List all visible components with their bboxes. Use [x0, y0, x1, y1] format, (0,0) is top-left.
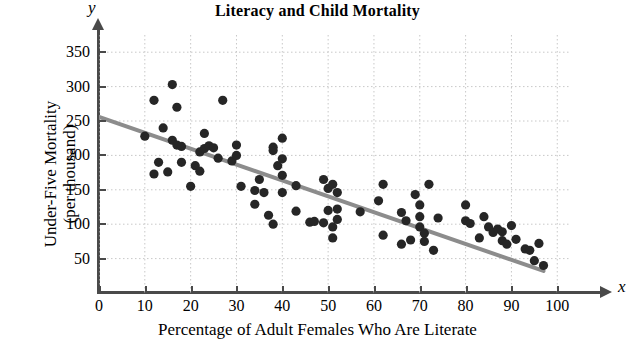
scatter-point: [479, 212, 488, 221]
scatter-point: [379, 231, 388, 240]
scatter-point: [291, 207, 300, 216]
scatter-point: [411, 190, 420, 199]
scatter-point: [177, 158, 186, 167]
scatter-point: [466, 219, 475, 228]
y-tick-mark: [97, 154, 106, 156]
scatter-point: [278, 154, 287, 163]
scatter-point: [530, 256, 539, 265]
scatter-point: [511, 235, 520, 244]
y-tick-mark: [97, 223, 106, 225]
scatter-point: [461, 200, 470, 209]
scatter-point: [232, 140, 241, 149]
scatter-point: [502, 240, 511, 249]
scatter-point: [507, 221, 516, 230]
y-tick-mark: [97, 86, 106, 88]
x-tick-mark: [282, 286, 284, 294]
x-tick-label: 30: [211, 297, 261, 315]
x-tick-label: 90: [486, 297, 536, 315]
x-tick-label: 10: [120, 297, 170, 315]
scatter-point: [278, 134, 287, 143]
scatter-point: [200, 129, 209, 138]
scatter-point: [291, 181, 300, 190]
scatter-point: [236, 182, 245, 191]
scatter-point: [149, 169, 158, 178]
scatter-point: [172, 103, 181, 112]
scatter-point: [434, 213, 443, 222]
x-tick-mark: [557, 286, 559, 294]
scatter-point: [328, 180, 337, 189]
x-tick-mark: [328, 286, 330, 294]
scatter-point: [539, 261, 548, 270]
scatter-point: [168, 80, 177, 89]
scatter-point: [406, 235, 415, 244]
x-tick-mark: [191, 286, 193, 294]
regression-line-segment: [99, 117, 544, 271]
scatter-point: [232, 151, 241, 160]
x-tick-label: 70: [395, 297, 445, 315]
x-tick-mark: [99, 286, 101, 294]
x-tick-mark: [374, 286, 376, 294]
scatter-point: [250, 200, 259, 209]
scatter-point: [278, 171, 287, 180]
scatter-point: [154, 158, 163, 167]
x-tick-mark: [420, 286, 422, 294]
scatter-point: [214, 154, 223, 163]
x-tick-mark: [466, 286, 468, 294]
x-axis-letter: x: [618, 277, 626, 297]
scatter-point: [324, 206, 333, 215]
y-tick-mark: [97, 120, 106, 122]
scatter-point: [319, 218, 328, 227]
scatter-point: [264, 211, 273, 220]
plot-area: [99, 35, 571, 293]
scatter-point: [475, 233, 484, 242]
scatter-point: [177, 142, 186, 151]
scatter-point: [209, 143, 218, 152]
scatter-point: [328, 233, 337, 242]
scatter-point: [278, 188, 287, 197]
scatter-point: [259, 188, 268, 197]
chart-figure: Literacy and Child Mortality y x 5010015…: [0, 0, 635, 348]
x-tick-label: 0: [74, 297, 124, 315]
regression-line: [99, 117, 544, 271]
y-tick-mark: [97, 189, 106, 191]
x-tick-label: 20: [166, 297, 216, 315]
y-tick-mark: [97, 258, 106, 260]
x-tick-label: 40: [257, 297, 307, 315]
scatter-point: [163, 167, 172, 176]
scatter-point: [333, 215, 342, 224]
scatter-point: [534, 239, 543, 248]
scatter-point: [149, 96, 158, 105]
scatter-point: [140, 132, 149, 141]
scatter-point: [374, 196, 383, 205]
scatter-point: [269, 220, 278, 229]
scatter-point: [525, 246, 534, 255]
scatter-point: [255, 175, 264, 184]
scatter-point: [356, 207, 365, 216]
scatter-point: [159, 123, 168, 132]
x-axis-arrow-icon: [600, 286, 612, 298]
x-tick-mark: [236, 286, 238, 294]
scatter-point: [401, 216, 410, 225]
x-tick-mark: [511, 286, 513, 294]
scatter-plot-svg: [99, 35, 571, 293]
scatter-point: [429, 246, 438, 255]
x-axis-title: Percentage of Adult Females Who Are Lite…: [0, 320, 635, 340]
scatter-point: [420, 229, 429, 238]
scatter-point: [310, 217, 319, 226]
y-axis-title-line1: Under-Five Mortality: [41, 54, 60, 294]
scatter-point: [415, 200, 424, 209]
scatter-point: [498, 227, 507, 236]
x-tick-label: 60: [349, 297, 399, 315]
y-axis-title-line2: (per thousand): [60, 54, 79, 294]
scatter-point: [424, 180, 433, 189]
scatter-point: [379, 180, 388, 189]
scatter-point: [319, 175, 328, 184]
scatter-point: [333, 204, 342, 213]
scatter-point: [397, 208, 406, 217]
scatter-point: [250, 186, 259, 195]
scatter-point: [269, 143, 278, 152]
y-axis-letter: y: [88, 0, 96, 18]
scatter-point: [397, 240, 406, 249]
x-tick-label: 100: [532, 297, 582, 315]
scatter-point: [195, 167, 204, 176]
